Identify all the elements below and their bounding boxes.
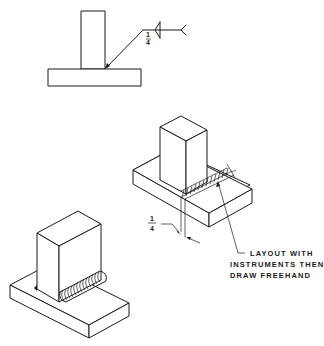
dimension-numerator: 1 bbox=[150, 215, 154, 222]
base-plate bbox=[48, 69, 141, 86]
technical-drawing-canvas: 1 4 bbox=[0, 0, 324, 346]
orthographic-tee-joint: 1 4 bbox=[48, 11, 186, 86]
arrowhead-icon bbox=[176, 230, 181, 234]
dimension-leader bbox=[161, 224, 179, 232]
note-line-2: INSTRUMENTS THEN bbox=[230, 260, 324, 269]
arrowhead-icon bbox=[105, 63, 110, 69]
note-line-1: LAYOUT WITH bbox=[250, 249, 314, 258]
isometric-finished-joint bbox=[10, 211, 129, 338]
weld-size-numerator: 1 bbox=[146, 31, 150, 38]
note-line-3: DRAW FREEHAND bbox=[230, 271, 311, 280]
arrowhead-icon bbox=[186, 237, 191, 240]
vertical-member bbox=[81, 11, 105, 69]
isometric-layout-joint: 1 4 LAYOUT WITH INSTRUMENTS THEN DRAW FR… bbox=[133, 116, 324, 280]
dimension-denominator: 4 bbox=[150, 225, 154, 232]
leader-line bbox=[106, 30, 143, 68]
weld-size-denominator: 4 bbox=[146, 39, 150, 46]
